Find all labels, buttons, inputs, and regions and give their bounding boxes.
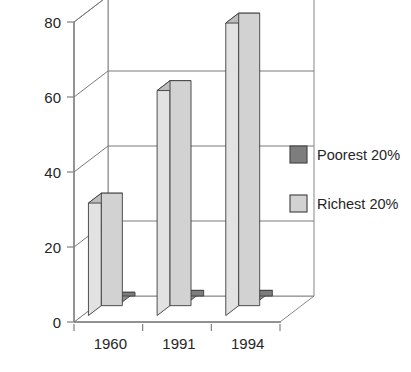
legend-label-richest: Richest 20% <box>317 196 399 212</box>
bar-front-face <box>101 193 122 306</box>
bar-front-face <box>239 13 260 306</box>
bar-side-face <box>226 13 239 315</box>
y-axis-label-40: 40 <box>44 164 61 181</box>
x-axis-label-1960: 1960 <box>94 335 127 352</box>
y-axis-label-0: 0 <box>53 314 61 331</box>
legend-label-poorest: Poorest 20% <box>317 147 400 163</box>
legend-swatch-richest <box>290 195 307 212</box>
bar-front-face <box>170 81 191 306</box>
y-axis-label-80: 80 <box>44 14 61 31</box>
chart-container: 020406080196019911994Poorest 20%Richest … <box>0 0 411 372</box>
bar-side-face <box>88 193 101 315</box>
legend-swatch-poorest <box>290 146 307 163</box>
y-axis-label-60: 60 <box>44 89 61 106</box>
y-axis-label-20: 20 <box>44 239 61 256</box>
x-axis-label-1991: 1991 <box>162 335 195 352</box>
bar-chart-3d: 020406080196019911994Poorest 20%Richest … <box>0 0 411 372</box>
x-axis-label-1994: 1994 <box>231 335 264 352</box>
chart-back-wall <box>108 0 314 296</box>
bar-side-face <box>157 81 170 316</box>
